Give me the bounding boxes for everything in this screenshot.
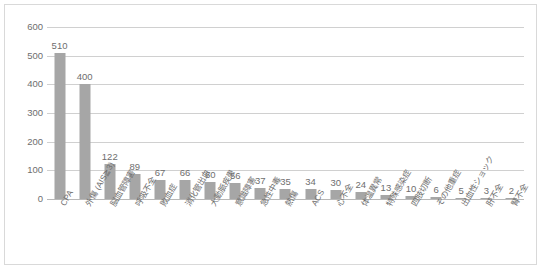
y-axis-tick-label: 400	[9, 80, 43, 90]
x-axis-tick: 意識障害	[223, 201, 248, 263]
x-axis: CPA外傷 (AIS≧3)脳血管障害呼吸不全敗血症消化管出血大動脈疾患意識障害急…	[47, 201, 524, 263]
x-axis-tick: ACS	[298, 201, 323, 263]
bar-slot: 30	[323, 27, 348, 199]
y-axis-tick-label: 100	[9, 166, 43, 176]
bar-value-label: 67	[155, 168, 166, 178]
x-axis-tick: 心不全	[323, 201, 348, 263]
bar-slot: 6	[424, 27, 449, 199]
bar-value-label: 122	[102, 152, 118, 162]
x-axis-tick: 熱傷	[273, 201, 298, 263]
x-axis-tick: 体温異常	[348, 201, 373, 263]
bar-slot: 66	[173, 27, 198, 199]
x-axis-tick: 特殊感染症	[373, 201, 398, 263]
x-axis-tick: CPA	[47, 201, 72, 263]
bar-slot: 24	[348, 27, 373, 199]
y-axis-tick-label: 0	[9, 194, 43, 204]
bar[interactable]	[79, 84, 90, 199]
bar-value-label: 24	[356, 180, 367, 190]
bar-value-label: 400	[77, 72, 93, 82]
x-axis-tick: 消化管出血	[173, 201, 198, 263]
bar-slot: 37	[248, 27, 273, 199]
bar[interactable]	[54, 53, 65, 199]
bar-value-label: 66	[180, 168, 191, 178]
x-axis-tick: 敗血症	[147, 201, 172, 263]
y-axis-tick-label: 200	[9, 137, 43, 147]
x-axis-tick: 外傷 (AIS≧3)	[72, 201, 97, 263]
bar-slot: 67	[147, 27, 172, 199]
chart-frame: 0100200300400500600 51040012289676660563…	[4, 4, 537, 265]
x-axis-tick: その他重症	[424, 201, 449, 263]
y-axis-tick-label: 300	[9, 108, 43, 118]
bar-value-label: 34	[305, 177, 316, 187]
bar-slot: 2	[499, 27, 524, 199]
bar-slot: 35	[273, 27, 298, 199]
x-axis-tick: 大動脈疾患	[198, 201, 223, 263]
bar-slot: 13	[373, 27, 398, 199]
x-axis-tick: 肝不全	[474, 201, 499, 263]
x-axis-tick: 呼吸不全	[122, 201, 147, 263]
x-axis-tick: 腎不全	[499, 201, 524, 263]
bar-value-label: 30	[330, 178, 341, 188]
y-axis-tick-label: 500	[9, 51, 43, 61]
bar-value-label: 510	[52, 41, 68, 51]
y-axis-tick-label: 600	[9, 22, 43, 32]
x-axis-tick: 四肢切断	[398, 201, 423, 263]
x-axis-tick: 急性中毒	[248, 201, 273, 263]
bar-slot: 34	[298, 27, 323, 199]
bar-slot: 400	[72, 27, 97, 199]
bar-slot: 510	[47, 27, 72, 199]
x-axis-tick: 出血性ショック	[449, 201, 474, 263]
y-axis: 0100200300400500600	[5, 27, 43, 199]
x-axis-tick: 脳血管障害	[97, 201, 122, 263]
